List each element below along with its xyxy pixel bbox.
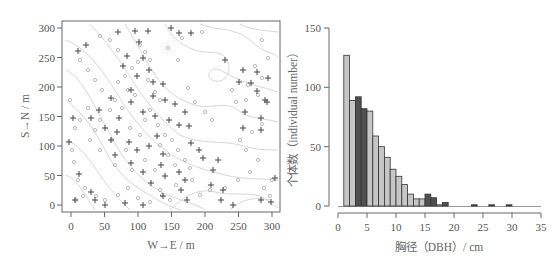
y-tick-label: 0 — [316, 200, 322, 212]
bar — [384, 157, 390, 206]
x-tick-label: 250 — [230, 220, 247, 232]
plot-frame — [62, 21, 280, 212]
x-tick-label: 5 — [364, 221, 370, 233]
bar — [413, 199, 419, 206]
y-tick-label: 200 — [39, 81, 56, 93]
y-tick-label: 300 — [39, 22, 56, 34]
bar — [471, 205, 477, 206]
x-tick-label: 30 — [507, 221, 519, 233]
x-tick-label: 100 — [130, 220, 147, 232]
plus-markers — [66, 25, 278, 208]
dbh-histogram: 0 50 100 150 个体数（individual number） — [286, 22, 547, 253]
x-tick-label: 10 — [391, 221, 403, 233]
bar — [350, 100, 356, 206]
x-tick-label: 200 — [197, 220, 214, 232]
bar — [367, 111, 373, 206]
bar — [489, 205, 495, 206]
y-axis-title: 个体数（individual number） — [286, 47, 299, 187]
y-tick-label: 150 — [39, 111, 56, 123]
x-tick-label: 300 — [264, 220, 281, 232]
bar — [402, 185, 408, 206]
y-tick-label: 100 — [305, 81, 322, 93]
bar — [437, 205, 443, 206]
bar — [442, 202, 448, 206]
x-tick-label: 25 — [478, 221, 490, 233]
y-tick-label: 50 — [44, 170, 56, 182]
x-tick-label: 35 — [536, 221, 548, 233]
x-axis — [71, 212, 272, 217]
x-tick-label: 15 — [420, 221, 432, 233]
y-tick-label: 250 — [39, 52, 56, 64]
y-tick-label: 0 — [50, 199, 56, 211]
bar — [396, 176, 402, 206]
x-tick-label: 150 — [163, 220, 180, 232]
bar — [379, 147, 385, 206]
x-tick-label: 0 — [335, 221, 341, 233]
x-axis-title: 胸径（DBH）/ cm — [395, 240, 483, 253]
y-tick-label: 100 — [39, 140, 56, 152]
bar — [355, 97, 361, 206]
bar — [419, 199, 425, 206]
x-tick-label: 20 — [449, 221, 461, 233]
y-axis-title: S→N / m — [19, 94, 31, 138]
bar — [506, 205, 512, 206]
x-axis-title: W→E / m — [147, 239, 194, 251]
bar — [425, 194, 431, 206]
bar — [390, 169, 396, 206]
bar — [373, 136, 379, 206]
contour-lines — [66, 24, 278, 210]
x-tick-label: 0 — [68, 220, 74, 232]
y-axis — [57, 28, 62, 205]
bar — [431, 198, 437, 206]
bar — [344, 55, 350, 206]
y-tick-label: 50 — [310, 141, 322, 153]
y-axis — [324, 28, 329, 206]
bar — [408, 194, 414, 206]
x-axis — [338, 213, 541, 218]
y-tick-label: 150 — [305, 22, 322, 34]
bars — [344, 55, 512, 206]
figure: 0 50 100 150 200 250 300 W→E / m 0 50 10… — [0, 0, 555, 273]
bar — [361, 109, 367, 206]
x-tick-label: 50 — [99, 220, 111, 232]
spatial-plot: 0 50 100 150 200 250 300 W→E / m 0 50 10… — [19, 21, 281, 251]
